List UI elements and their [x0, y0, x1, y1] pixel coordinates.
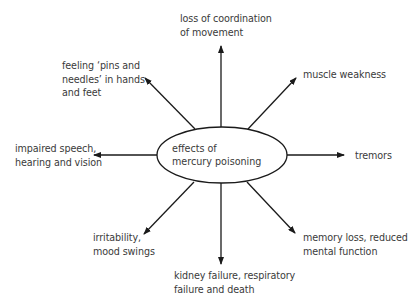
center-label-line1: effects of	[172, 142, 261, 155]
effect-text-line: needles’ in hands	[62, 73, 145, 87]
effect-text-line: irritability,	[93, 231, 155, 245]
effect-label-impaired-speech: impaired speech, hearing and vision	[15, 142, 102, 169]
effect-label-coordination: loss of coordination of movement	[180, 12, 272, 39]
effect-text-line: mood swings	[93, 245, 155, 259]
arrow-bottom-left	[144, 182, 194, 234]
effect-label-muscle-weakness: muscle weakness	[303, 68, 386, 82]
arrow-bottom-right	[247, 182, 295, 233]
arrow-top-left	[145, 78, 195, 129]
effect-text-line: hearing and vision	[15, 156, 102, 170]
effect-text-line: kidney failure, respiratory	[174, 269, 295, 283]
center-label: effects of mercury poisoning	[172, 142, 261, 168]
effect-text-line: mental function	[303, 245, 408, 259]
effect-text-line: muscle weakness	[303, 68, 386, 82]
effect-text-line: and feet	[62, 86, 145, 100]
effect-text-line: tremors	[355, 149, 392, 163]
mercury-poisoning-diagram: effects of mercury poisoning loss of coo…	[0, 0, 415, 301]
effect-text-line: impaired speech,	[15, 142, 102, 156]
effect-label-kidney-failure: kidney failure, respiratory failure and …	[174, 269, 295, 296]
center-label-line2: mercury poisoning	[172, 155, 261, 168]
effect-text-line: memory loss, reduced	[303, 231, 408, 245]
effect-label-pins-and-needles: feeling ‘pins and needles’ in hands and …	[62, 59, 145, 100]
effect-label-memory-loss: memory loss, reduced mental function	[303, 231, 408, 258]
effect-text-line: loss of coordination	[180, 12, 272, 26]
effect-text-line: failure and death	[174, 283, 295, 297]
effect-label-tremors: tremors	[355, 149, 392, 163]
effect-label-irritability: irritability, mood swings	[93, 231, 155, 258]
effect-text-line: of movement	[180, 26, 272, 40]
effect-text-line: feeling ‘pins and	[62, 59, 145, 73]
arrow-top-right	[248, 78, 296, 129]
